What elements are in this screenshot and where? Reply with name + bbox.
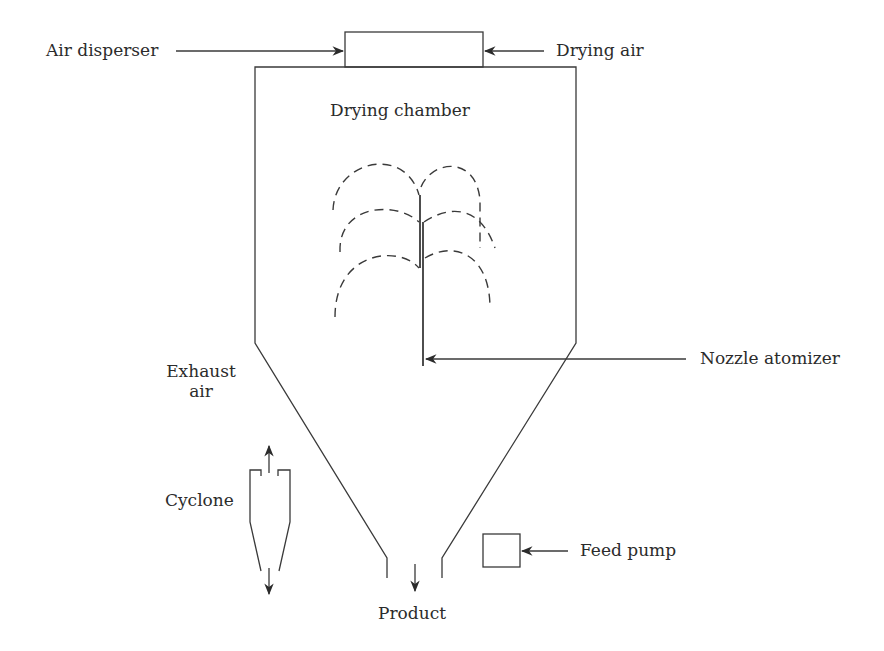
feed-pump-box <box>483 534 520 567</box>
label-feed-pump: Feed pump <box>580 540 676 560</box>
spray-dryer-diagram <box>0 0 884 651</box>
label-nozzle-atomizer: Nozzle atomizer <box>700 348 840 368</box>
label-product: Product <box>378 603 446 623</box>
cyclone <box>250 446 290 594</box>
label-drying-chamber: Drying chamber <box>330 100 470 120</box>
label-exhaust-line2: air <box>166 381 236 401</box>
drying-chamber <box>255 67 576 578</box>
spray-pattern <box>333 164 495 317</box>
label-cyclone: Cyclone <box>165 490 234 510</box>
label-exhaust-air: Exhaust air <box>166 361 236 402</box>
label-exhaust-line1: Exhaust <box>166 361 236 381</box>
label-drying-air: Drying air <box>556 40 644 60</box>
label-air-disperser: Air disperser <box>46 40 158 60</box>
air-disperser-box <box>345 32 483 67</box>
